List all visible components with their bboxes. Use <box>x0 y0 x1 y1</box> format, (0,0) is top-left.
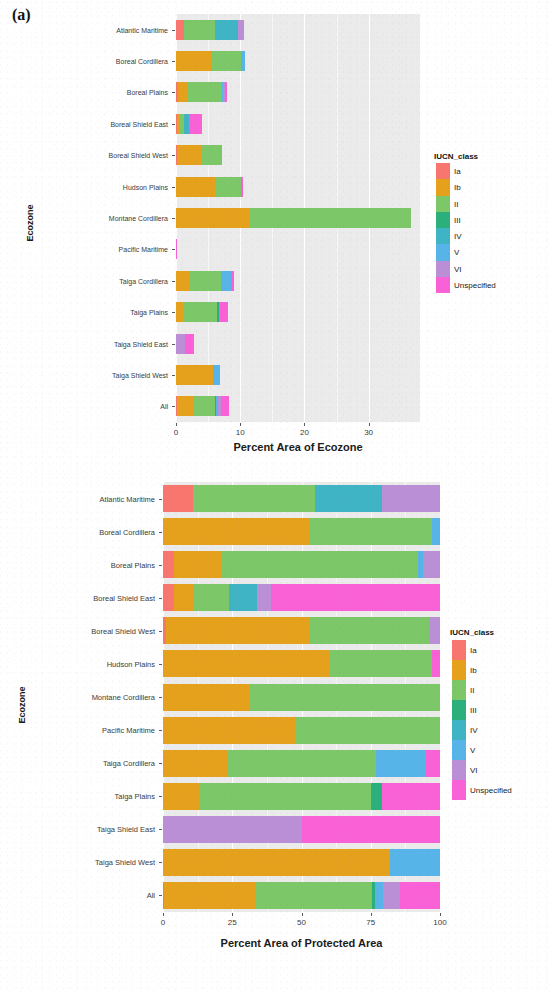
y-tick-label: Boreal Plains <box>0 560 155 569</box>
y-tick-mark <box>172 61 175 62</box>
stacked-bar <box>176 145 420 165</box>
stacked-bar <box>163 816 440 843</box>
y-tick-label: Atlantic Maritime <box>0 26 168 33</box>
stacked-bar <box>176 365 420 385</box>
bar-segment-unspecified <box>219 302 228 322</box>
x-tick-label: 0 <box>161 918 165 927</box>
bar-segment-ii <box>249 684 440 711</box>
x-tick-mark <box>304 423 305 426</box>
y-tick-label: Taiga Shield East <box>0 340 168 347</box>
legend-swatch-unspecified <box>452 780 466 800</box>
y-tick-label: Boreal Shield West <box>0 626 155 635</box>
bar-segment-ii <box>221 551 418 578</box>
bar-segment-ia <box>163 584 174 611</box>
bar-segment-ib <box>164 882 255 909</box>
bar-segment-unspecified <box>221 396 229 416</box>
y-tick-label: Montane Cordillera <box>0 693 155 702</box>
x-tick-label: 75 <box>366 918 375 927</box>
bar-segment-iii <box>371 783 382 810</box>
bar-segment-ib <box>176 208 250 228</box>
legend-swatch-v <box>452 740 466 760</box>
bar-segment-vi <box>383 882 400 909</box>
y-tick-mark <box>172 155 175 156</box>
y-tick-mark <box>172 312 175 313</box>
bar-segment-ii <box>201 145 221 165</box>
stacked-bar <box>163 849 440 876</box>
x-tick-mark <box>176 423 177 426</box>
bar-segment-ii <box>189 271 220 291</box>
y-tick-mark <box>172 30 175 31</box>
stacked-bar <box>176 20 420 40</box>
x-tick-label: 10 <box>236 428 245 437</box>
x-tick-mark <box>163 913 164 916</box>
legend-swatch-iii <box>436 212 450 228</box>
y-tick-label: Taiga Cordillera <box>0 277 168 284</box>
stacked-bar <box>163 485 440 512</box>
stacked-bar <box>163 750 440 777</box>
bar-segment-ia <box>163 485 193 512</box>
bar-segment-ib <box>176 271 189 291</box>
legend-key-label: III <box>470 706 477 715</box>
legend-swatch-ia <box>436 163 450 179</box>
bar-segment-unspecified <box>426 750 440 777</box>
legend-key-label: Ia <box>470 646 477 655</box>
bar-segment-unspecified <box>382 783 440 810</box>
bar-segment-ib <box>163 518 310 545</box>
y-tick-mark <box>159 598 162 599</box>
bar-segment-ib <box>163 750 227 777</box>
x-tick-mark <box>371 913 372 916</box>
y-tick-mark <box>159 862 162 863</box>
y-tick-mark <box>172 92 175 93</box>
bar-segment-ib <box>176 51 212 71</box>
x-tick-mark <box>302 913 303 916</box>
legend-key-label: Unspecified <box>470 786 512 795</box>
legend-key-label: Ia <box>454 167 461 176</box>
bar-segment-vi <box>163 816 302 843</box>
y-tick-mark <box>172 187 175 188</box>
legend-swatch-unspecified <box>436 277 450 293</box>
x-tick-label: 50 <box>297 918 306 927</box>
stacked-bar <box>176 177 420 197</box>
x-tick-mark <box>240 423 241 426</box>
y-tick-mark <box>159 532 162 533</box>
legend-key-label: Ib <box>454 183 461 192</box>
stacked-bar <box>176 396 420 416</box>
y-tick-mark <box>172 406 175 407</box>
x-tick-label: 25 <box>228 918 237 927</box>
bar-segment-ib <box>174 551 221 578</box>
bar-segment-ii <box>187 82 222 102</box>
legend-key-label: III <box>454 215 461 224</box>
bar-segment-v <box>241 51 245 71</box>
y-tick-mark <box>159 664 162 665</box>
x-tick-label: 100 <box>433 918 446 927</box>
legend-swatch-v <box>436 244 450 260</box>
y-tick-label: Boreal Cordillera <box>0 58 168 65</box>
panel-a-chart: (a) Ecozone Percent Area of Ecozone Atla… <box>0 0 549 460</box>
bar-segment-unspecified <box>400 882 440 909</box>
bar-segment-v <box>390 849 440 876</box>
bar-segment-ib <box>163 849 390 876</box>
bar-segment-vi <box>257 584 271 611</box>
y-tick-label: All <box>0 891 155 900</box>
bar-segment-unspecified <box>225 82 226 102</box>
bar-segment-ib <box>176 177 216 197</box>
x-tick-mark <box>232 913 233 916</box>
y-tick-label: Taiga Shield West <box>0 371 168 378</box>
y-tick-label: Taiga Cordillera <box>0 759 155 768</box>
stacked-bar <box>163 551 440 578</box>
stacked-bar <box>176 82 420 102</box>
y-tick-label: Pacific Maritime <box>0 726 155 735</box>
legend-swatch-ia <box>452 640 466 660</box>
bar-segment-v <box>221 271 231 291</box>
bar-segment-unspecified <box>189 114 202 134</box>
legend-swatch-vi <box>436 261 450 277</box>
y-tick-mark <box>159 895 162 896</box>
panel-a-x-axis-title: Percent Area of Ecozone <box>176 441 420 453</box>
y-tick-label: Boreal Plains <box>0 89 168 96</box>
bar-segment-ib <box>177 145 201 165</box>
legend-swatch-iii <box>452 700 466 720</box>
stacked-bar <box>176 208 420 228</box>
bar-segment-iv <box>315 485 381 512</box>
y-tick-label: Pacific Maritime <box>0 246 168 253</box>
y-tick-mark <box>159 697 162 698</box>
